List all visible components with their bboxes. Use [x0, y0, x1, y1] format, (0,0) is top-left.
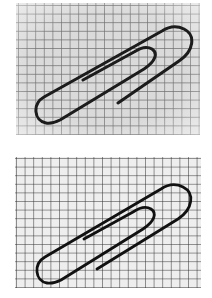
paperclip-image-bottom — [15, 157, 201, 288]
paperclip-photo-sharp — [15, 157, 201, 288]
paperclip-photo-blurred — [16, 3, 200, 135]
paperclip-image-top — [16, 3, 200, 135]
